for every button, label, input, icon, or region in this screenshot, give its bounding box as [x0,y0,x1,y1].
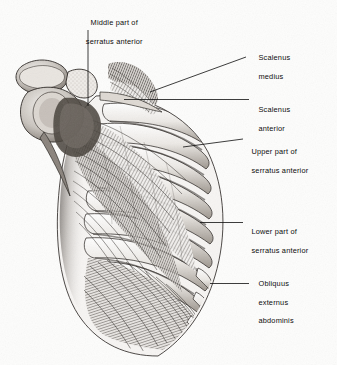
label-obliquus-externus-line3: abdominis [258,316,293,325]
label-obliquus-externus: Obliquus externus abdominis [254,270,334,325]
label-obliquus-externus-line2: externus [258,298,288,307]
label-obliquus-externus-line1: Obliquus [258,279,289,288]
label-scalenus-anterior-line2: anterior [258,124,285,133]
label-scalenus-medius: Scalenus medius [254,44,334,81]
label-middle-serratus-line2: serratus anterior [86,37,143,46]
label-scalenus-anterior: Scalenus anterior [254,96,334,133]
label-lower-serratus-line1: Lower part of [251,227,296,236]
label-scalenus-medius-line1: Scalenus [258,53,290,62]
label-lower-serratus-line2: serratus anterior [251,246,308,255]
label-scalenus-anterior-line1: Scalenus [258,105,290,114]
label-scalenus-medius-line2: medius [258,72,283,81]
label-upper-serratus-line2: serratus anterior [251,166,308,175]
label-upper-serratus-line1: Upper part of [251,147,296,156]
label-upper-serratus: Upper part of serratus anterior [247,138,335,175]
label-middle-serratus: Middle part of serratus anterior [60,9,164,46]
label-lower-serratus: Lower part of serratus anterior [247,218,335,255]
label-middle-serratus-line1: Middle part of [91,18,138,27]
